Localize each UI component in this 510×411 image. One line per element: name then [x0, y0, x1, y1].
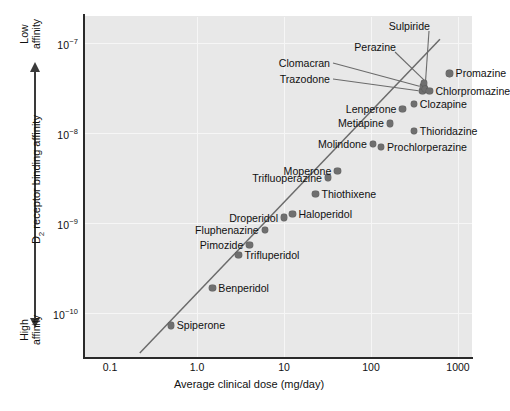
data-point-label: Benperidol: [218, 282, 269, 293]
gridline-horizontal: [85, 313, 472, 314]
y-axis-title: D2 receptor binding affinity: [30, 80, 45, 280]
data-point-label: Thiothixene: [321, 189, 376, 200]
data-point-marker: [246, 242, 252, 248]
y-axis-title-suffix: receptor binding affinity: [30, 115, 42, 232]
data-point-label: Molindone: [318, 138, 367, 149]
x-axis-tick-label: 100: [341, 361, 401, 373]
high-affinity-line1: High: [18, 319, 30, 341]
x-axis-title: Average clinical dose (mg/day): [0, 378, 498, 390]
gridline-vertical: [197, 17, 198, 357]
data-point-marker: [387, 120, 393, 126]
x-axis-tick-label: 10: [254, 361, 314, 373]
data-point-label: Droperidol: [229, 212, 278, 223]
data-point-marker: [446, 70, 452, 76]
data-point-marker: [334, 168, 340, 174]
data-point-marker: [370, 141, 376, 147]
data-point-label: Chlorpromazine: [435, 85, 510, 96]
high-affinity-annotation: High affinity: [18, 295, 42, 365]
y-axis-line: [83, 14, 85, 359]
y-axis-title-subscript: 2: [37, 232, 46, 236]
data-point-label: Thioridazine: [420, 126, 478, 137]
x-axis-tick-label: 1000: [428, 361, 488, 373]
data-point-label: Lenperone: [346, 103, 397, 114]
data-point-marker: [168, 322, 174, 328]
data-point-marker: [312, 191, 318, 197]
x-axis-tick-label: 0.1: [80, 361, 140, 373]
data-point-marker: [281, 214, 287, 220]
gridline-horizontal: [85, 43, 472, 44]
data-point-label: Clozapine: [420, 99, 467, 110]
data-point-label: Prochlorperazine: [387, 141, 467, 152]
x-axis-tick-label: 1.0: [167, 361, 227, 373]
data-point-label: Pimozide: [200, 239, 244, 250]
data-point-marker: [289, 211, 295, 217]
y-axis-title-prefix: D: [30, 236, 42, 244]
high-affinity-line2: affinity: [30, 315, 42, 345]
data-point-label: Haloperidol: [298, 209, 352, 220]
data-point-label: Sulpiride: [389, 21, 430, 32]
data-point-label: Clomacran: [279, 58, 330, 69]
gridline-horizontal: [85, 223, 472, 224]
data-point-marker: [209, 285, 215, 291]
data-point-label: Perazine: [354, 42, 396, 53]
data-point-label: Promazine: [456, 68, 507, 79]
data-point-label: Trifluperidol: [245, 250, 300, 261]
x-axis-line: [83, 357, 473, 359]
data-point-label: Trazodone: [280, 74, 330, 85]
data-point-label: Metiapine: [338, 118, 384, 129]
data-point-label: Moperone: [284, 165, 332, 176]
data-point-marker: [235, 252, 241, 258]
data-point-label: Fluphenazine: [195, 225, 259, 236]
data-point-marker: [399, 106, 405, 112]
data-point-marker: [426, 88, 432, 94]
data-point-label: Spiperone: [177, 320, 225, 331]
data-point-marker: [411, 101, 417, 107]
low-affinity-line2: affinity: [30, 19, 42, 49]
low-affinity-annotation: Low affinity: [18, 0, 42, 69]
low-affinity-line1: Low: [18, 24, 30, 43]
